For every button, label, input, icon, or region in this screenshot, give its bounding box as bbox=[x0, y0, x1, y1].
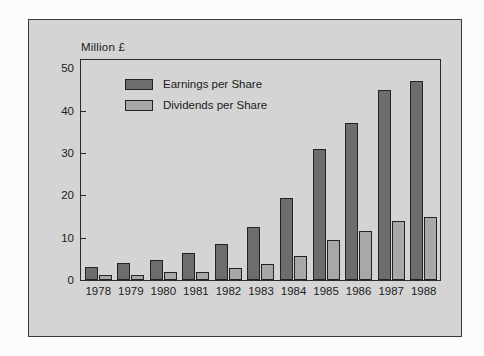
bar-group bbox=[310, 60, 343, 280]
bar-group bbox=[375, 60, 408, 280]
x-axis-tick-label: 1986 bbox=[346, 285, 372, 297]
y-axis-unit-caption: Million £ bbox=[81, 41, 125, 53]
legend-label: Dividends per Share bbox=[163, 99, 267, 111]
bar-group bbox=[82, 60, 115, 280]
bar-dividends bbox=[131, 275, 144, 280]
bar-earnings bbox=[378, 90, 391, 280]
legend-item: Earnings per Share bbox=[125, 78, 267, 90]
x-axis-tick-label: 1988 bbox=[411, 285, 437, 297]
y-axis-tick-label: 50 bbox=[52, 62, 74, 74]
x-axis-tick-label: 1983 bbox=[248, 285, 274, 297]
y-axis-tick-label: 0 bbox=[52, 274, 74, 286]
x-axis-tick-label: 1982 bbox=[216, 285, 242, 297]
bar-earnings bbox=[410, 81, 423, 280]
chart-figure: Million £ 01020304050 197819791980198119… bbox=[0, 0, 484, 356]
bar-dividends bbox=[294, 256, 307, 280]
bar-group bbox=[342, 60, 375, 280]
chart-legend: Earnings per ShareDividends per Share bbox=[125, 78, 267, 111]
bar-dividends bbox=[327, 240, 340, 280]
bar-earnings bbox=[345, 123, 358, 280]
y-axis-tick-label: 40 bbox=[52, 105, 74, 117]
bar-dividends bbox=[164, 272, 177, 280]
bar-dividends bbox=[424, 217, 437, 280]
x-axis-tick-label: 1981 bbox=[183, 285, 209, 297]
x-axis-tick-label: 1978 bbox=[85, 285, 111, 297]
bar-dividends bbox=[392, 221, 405, 280]
chart-panel: Million £ 01020304050 197819791980198119… bbox=[28, 19, 462, 337]
bar-earnings bbox=[280, 198, 293, 281]
bar-dividends bbox=[196, 272, 209, 280]
x-axis-tick-label: 1984 bbox=[281, 285, 307, 297]
bar-group bbox=[407, 60, 440, 280]
x-axis-tick-labels: 1978197919801981198219831984198519861987… bbox=[81, 285, 439, 303]
x-axis-tick-label: 1987 bbox=[378, 285, 404, 297]
bar-earnings bbox=[117, 263, 130, 280]
y-axis-tick-label: 10 bbox=[52, 232, 74, 244]
x-axis-tick-label: 1979 bbox=[118, 285, 144, 297]
legend-item: Dividends per Share bbox=[125, 99, 267, 111]
y-axis-tick-labels: 01020304050 bbox=[46, 59, 74, 281]
bar-dividends bbox=[229, 268, 242, 280]
bar-group bbox=[277, 60, 310, 280]
bar-dividends bbox=[359, 231, 372, 280]
bar-earnings bbox=[150, 260, 163, 280]
y-axis-tick-label: 20 bbox=[52, 189, 74, 201]
bar-earnings bbox=[215, 244, 228, 280]
bar-earnings bbox=[85, 267, 98, 280]
y-axis-tick-label: 30 bbox=[52, 147, 74, 159]
x-axis-tick-label: 1985 bbox=[313, 285, 339, 297]
bar-earnings bbox=[313, 149, 326, 280]
x-axis-tick-label: 1980 bbox=[151, 285, 177, 297]
legend-swatch-icon bbox=[125, 79, 153, 90]
bar-dividends bbox=[261, 264, 274, 280]
bar-dividends bbox=[99, 275, 112, 281]
legend-label: Earnings per Share bbox=[163, 78, 262, 90]
legend-swatch-icon bbox=[125, 100, 153, 111]
bar-earnings bbox=[182, 253, 195, 281]
bar-earnings bbox=[247, 227, 260, 280]
